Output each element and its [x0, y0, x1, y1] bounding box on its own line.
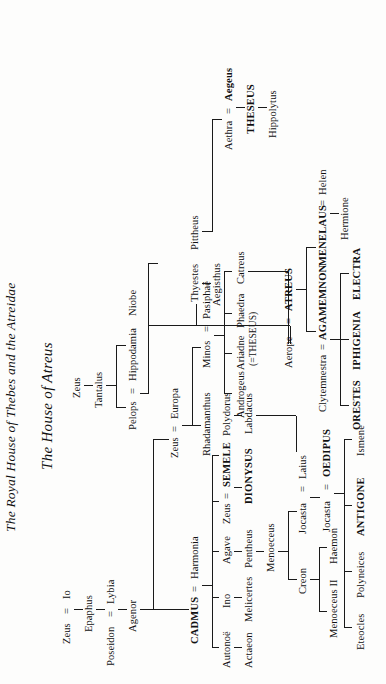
line-minos-children-bar	[224, 272, 225, 394]
line-tantalus-down	[106, 385, 116, 386]
person-androgeus: Androgeus	[236, 371, 247, 418]
line-to-creon	[288, 579, 297, 580]
line-atreus-down	[296, 289, 306, 290]
line-labdacus-to-laius	[296, 416, 297, 452]
person-pelops: Pelops	[128, 401, 139, 430]
marriage-sign-aerope-atreus: =	[284, 318, 295, 324]
line-autonoe-down	[234, 647, 242, 648]
line-to-eteocles	[344, 627, 352, 628]
person-dionysus: DIONYSUS	[244, 448, 255, 504]
person-aegeus: Aegeus	[224, 68, 235, 101]
line-to-thyestes	[196, 304, 197, 326]
family-tree-canvas: The Royal House of Thebes and the Atreid…	[0, 0, 386, 684]
person-hermione: Hermione	[340, 197, 351, 240]
line-to-catreus	[224, 271, 232, 272]
line-semele-down	[234, 487, 242, 488]
scanned-genealogy-page: The Royal House of Thebes and the Atreid…	[0, 0, 386, 684]
person-orestes: ORESTES	[352, 380, 363, 430]
line-theseus-down	[258, 107, 267, 108]
line-labdacus-down	[256, 415, 296, 416]
line-aethra-aegeus-down	[236, 107, 245, 108]
person-zeus-europa: Zeus	[170, 437, 181, 458]
person-semele: SEMELE	[222, 442, 233, 487]
marriage-sign-pelops-hippodamia: =	[128, 388, 139, 394]
line-thyestes-down	[202, 283, 211, 284]
person-antigone: ANTIGONE	[356, 477, 367, 536]
line-zeus-europa-down	[182, 425, 192, 426]
line-to-cadmus	[153, 609, 189, 610]
note-equals-theseus: (=THESEUS)	[249, 312, 259, 366]
person-agamemnon: AGAMEMNON	[318, 265, 329, 340]
line-to-ismene	[344, 439, 352, 440]
person-cadmus: CADMUS	[190, 597, 201, 644]
person-melicertes: Melicertes	[244, 577, 255, 622]
marriage-sign-jocasta-laius: =	[298, 486, 309, 492]
person-aegisthus: Aegisthus	[212, 263, 223, 306]
line-to-haemon	[319, 547, 327, 548]
line-creon-children-bar	[319, 548, 320, 612]
line-to-ariadne	[224, 353, 232, 354]
line-agamemnon-down	[330, 339, 340, 340]
line-minos-down	[214, 335, 224, 336]
person-hippolytus: Hippolytus	[268, 90, 279, 138]
person-atreus: ATREUS	[284, 268, 295, 311]
line-to-pittheus	[148, 263, 158, 264]
person-lybia: Lybia	[106, 580, 117, 604]
person-agenor: Agenor	[128, 600, 139, 632]
line-menoeceus-down	[278, 551, 288, 552]
person-jocasta-oedipus: Jocasta	[322, 501, 333, 532]
line-pelops-children-bar	[148, 264, 149, 394]
line-pittheus-to-aethra	[212, 120, 213, 232]
line-ino-down	[234, 597, 242, 598]
person-polyneices: Polyneices	[356, 552, 367, 599]
person-iphigenia: IPHIGENIA	[352, 311, 363, 370]
person-creon: Creon	[298, 568, 309, 594]
line-pittheus-down	[202, 231, 212, 232]
line-epaphus-down	[96, 609, 105, 610]
person-harmonia: Harmonia	[190, 536, 201, 579]
person-clytemnestra: Clytemnestra	[318, 355, 329, 412]
person-rhadamanthus: Rhadamanthus	[202, 392, 213, 456]
line-agenor-children-bar	[153, 440, 154, 610]
line-zeus-tantalus-down	[84, 385, 93, 386]
person-eteocles: Eteocles	[356, 614, 367, 650]
line-to-antigone	[344, 505, 352, 506]
line-jocasta-laius-down	[310, 497, 320, 498]
tick-agave	[212, 551, 219, 552]
person-menoeceus-ii: Menoeceus II	[329, 579, 340, 638]
marriage-sign-menelaus-helen: =	[318, 200, 329, 206]
line-to-androgeus	[224, 393, 232, 394]
person-niobe: Niobe	[128, 290, 139, 316]
line-agave-down	[234, 551, 242, 552]
person-autonoe: Autonoë	[222, 631, 233, 668]
section-title-house-of-atreus: The House of Atreus	[40, 342, 55, 470]
line-europa-children-bar	[192, 348, 193, 426]
person-catreus: Catreus	[236, 251, 247, 284]
marriage-sign-aethra-aegeus: =	[224, 108, 235, 114]
person-hippodamia: Hippodamia	[128, 328, 139, 381]
line-to-pelops	[116, 407, 126, 408]
marriage-sign-clytemnestra-agamemnon: =	[318, 344, 329, 350]
person-menoeceus: Menoeceus	[266, 523, 277, 572]
line-zeus-io-down	[74, 609, 83, 610]
person-minos: Minos	[202, 341, 213, 368]
marriage-sign-zeus-io: =	[62, 608, 73, 614]
person-ariadne: Ariadne	[236, 335, 247, 370]
person-europa: Europa	[170, 388, 181, 419]
person-tantalus: Tantalus	[94, 372, 105, 408]
person-haemon: Haemon	[329, 528, 340, 564]
line-tantalus-children-bar	[116, 346, 117, 408]
person-poseidon: Poseidon	[106, 627, 117, 666]
person-laius: Laius	[298, 455, 309, 479]
person-epaphus: Epaphus	[84, 595, 95, 632]
marriage-sign-jocasta-oedipus: =	[322, 484, 333, 490]
line-to-menelaus	[306, 247, 316, 248]
line-to-agamemnon	[306, 331, 316, 332]
line-to-iphigenia	[340, 339, 349, 340]
line-to-jocasta	[288, 511, 297, 512]
line-to-orestes	[340, 405, 349, 406]
line-cadmus-down	[202, 585, 212, 586]
line-to-niobe	[116, 345, 126, 346]
line-creon-down	[310, 579, 319, 580]
line-oedipus-children-bar	[344, 440, 345, 628]
